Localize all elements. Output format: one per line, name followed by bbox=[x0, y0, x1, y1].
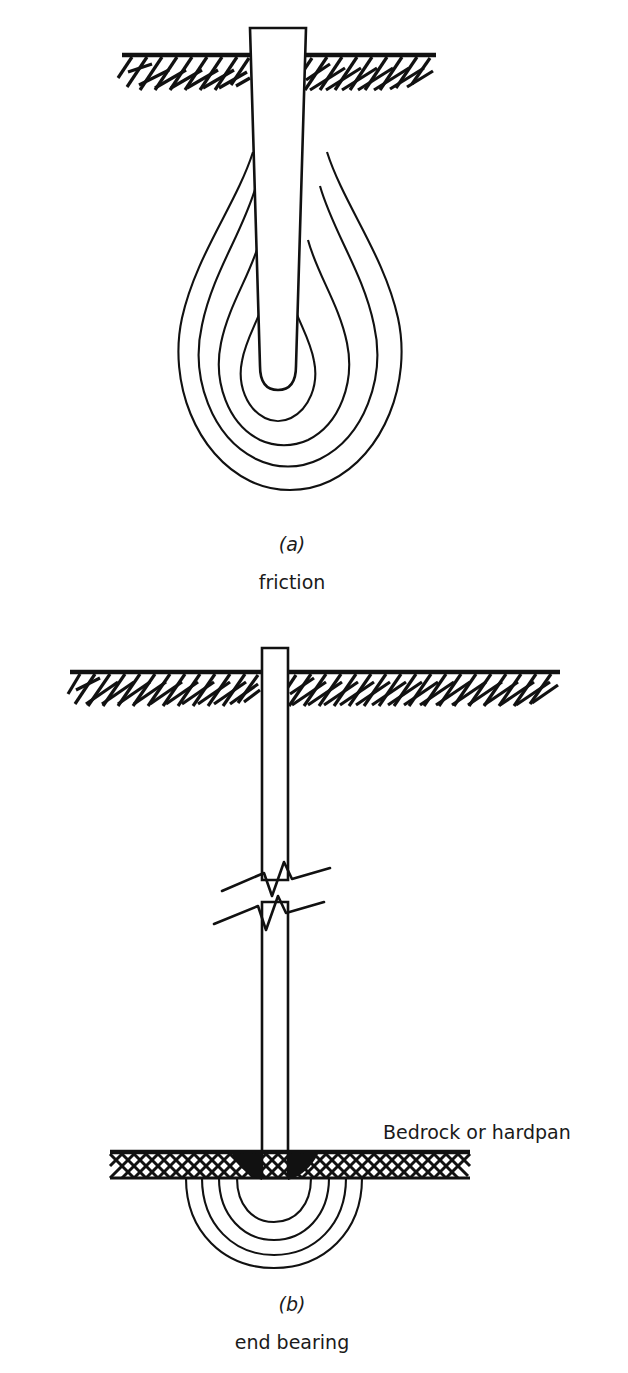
panel-b-name: end bearing bbox=[235, 1331, 349, 1353]
pile-shaft-a bbox=[250, 28, 306, 390]
panel-a-letter: (a) bbox=[279, 533, 305, 555]
pile-diagram-figure: (a) friction bbox=[0, 0, 628, 1373]
stress-bulb-b-1 bbox=[237, 1178, 311, 1222]
tip-contact-shading-left bbox=[232, 1154, 262, 1180]
soil-hatch-b-right bbox=[282, 674, 558, 706]
soil-hatch-a-left bbox=[118, 57, 250, 90]
figure-canvas: (a) friction bbox=[0, 0, 628, 1373]
bedrock-label: Bedrock or hardpan bbox=[383, 1121, 571, 1143]
soil-hatch-a-right bbox=[296, 57, 433, 90]
soil-hatch-b-left bbox=[68, 674, 260, 706]
panel-a-friction: (a) friction bbox=[118, 28, 436, 593]
pile-shaft-b-upper bbox=[262, 648, 288, 880]
stress-bulb-b-2 bbox=[219, 1178, 329, 1240]
panel-a-name: friction bbox=[259, 571, 326, 593]
panel-b-end-bearing: Bedrock or hardpan (b) end bearing bbox=[68, 648, 571, 1353]
panel-b-letter: (b) bbox=[279, 1293, 306, 1315]
pile-shaft-b-lower bbox=[262, 902, 288, 1178]
stress-bulb-b-3 bbox=[202, 1178, 346, 1255]
